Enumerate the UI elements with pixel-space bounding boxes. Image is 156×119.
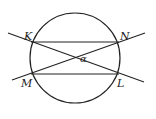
label-l: L [116, 77, 124, 90]
label-m: M [20, 77, 33, 90]
geometry-diagram: K N M L α [0, 0, 156, 119]
angle-alpha-label: α [80, 53, 87, 64]
label-k: K [23, 30, 33, 43]
label-n: N [119, 30, 130, 43]
